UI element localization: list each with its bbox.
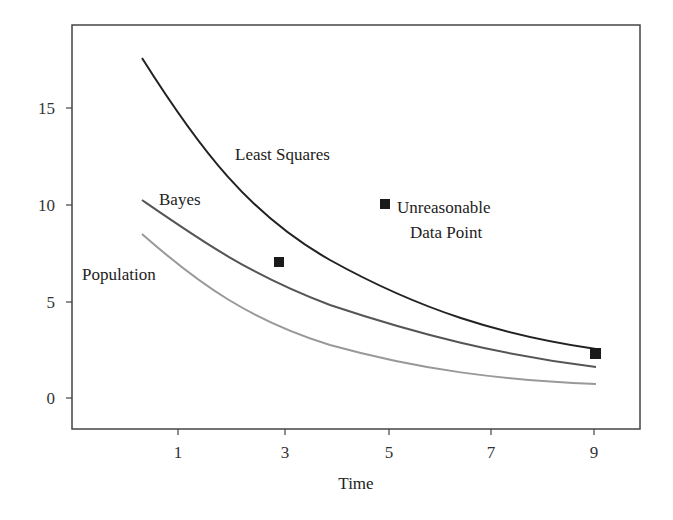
chart-canvas: 15 10 5 0 1 3 5 7 9 Time Least Squares B…	[0, 0, 673, 520]
population-curve	[142, 234, 596, 384]
least-squares-label: Least Squares	[235, 145, 330, 164]
y-tick-label-0: 0	[47, 389, 56, 408]
data-point-marker	[590, 348, 601, 359]
bayes-label: Bayes	[159, 190, 201, 209]
x-tick-label-5: 5	[385, 443, 394, 462]
x-tick-label-9: 9	[590, 443, 599, 462]
unreasonable-label-line2: Data Point	[410, 223, 483, 242]
population-label: Population	[82, 265, 156, 284]
x-tick-label-7: 7	[487, 443, 496, 462]
least-squares-curve	[142, 58, 596, 349]
plot-frame	[72, 25, 640, 429]
y-axis: 15 10 5 0	[38, 99, 72, 408]
y-tick-label-10: 10	[38, 196, 55, 215]
data-point-marker	[274, 257, 284, 267]
y-tick-label-5: 5	[47, 293, 56, 312]
x-axis-title: Time	[338, 474, 373, 493]
x-tick-label-1: 1	[174, 443, 183, 462]
bayes-curve	[142, 200, 596, 367]
y-tick-label-15: 15	[38, 99, 55, 118]
x-axis: 1 3 5 7 9 Time	[174, 429, 599, 493]
unreasonable-data-point-marker	[380, 199, 390, 209]
unreasonable-label-line1: Unreasonable	[397, 198, 490, 217]
x-tick-label-3: 3	[281, 443, 290, 462]
